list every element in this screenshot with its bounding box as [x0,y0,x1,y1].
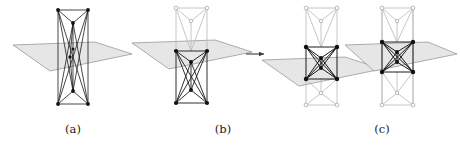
vertex-light [395,19,398,22]
caption-b: (b) [198,122,248,136]
vertex-dark [174,49,178,53]
vertex-dark [189,88,193,92]
vertex-dark [304,45,308,49]
vertex-dark [304,77,308,81]
vertex-dark [205,49,209,53]
panel-b-right-vertices [304,6,339,107]
vertex-light [189,19,192,22]
vertex-light [335,103,339,107]
caption-a: (a) [48,122,98,136]
vertex-light [395,91,398,94]
vertex-light [304,6,308,10]
vertex-dark [395,60,399,64]
vertex-dark [411,40,415,44]
vertex-light [411,6,415,10]
vertex-dark [174,101,178,105]
vertex-light [380,103,384,107]
vertex-dark [335,77,339,81]
vertex [71,89,75,93]
vertex-dark [411,70,415,74]
vertex-dark [335,45,339,49]
vertex-light [319,19,322,22]
vertex-light [335,6,339,10]
panel-c-graphic [345,6,457,107]
vertex-light [304,103,308,107]
panel-a-graphic [13,8,132,106]
vertex [71,21,75,25]
vertex-light [174,6,178,10]
caption-c: (c) [357,122,407,136]
vertex [56,102,60,106]
vertex-light [319,91,322,94]
vertex [56,8,60,12]
vertex-light [411,103,415,107]
vertex-dark [205,101,209,105]
panel-b-left-graphic [132,6,252,105]
vertex-dark [380,70,384,74]
figure-root: (a) (b) (c) [0,0,460,145]
vertex-light [205,6,209,10]
vertex [68,55,71,58]
vertex [86,8,90,12]
vertex-dark [189,60,193,64]
vertex-dark [319,66,323,70]
vertex [86,102,90,106]
vertex-light [380,6,384,10]
vertex [72,48,75,51]
vertex-dark [380,40,384,44]
caption-row: (a) (b) (c) [0,116,460,145]
vertex-dark [319,56,323,60]
vertex-dark [395,50,399,54]
